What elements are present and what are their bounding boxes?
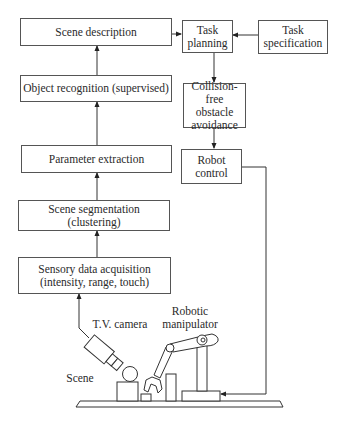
robotic-manipulator-icon <box>144 334 220 401</box>
robot-control-label-line1: Robot <box>197 154 225 167</box>
collision-free-avoidance-box: Collision-free obstacle avoidance <box>183 83 246 128</box>
object-recognition-box: Object recognition (supervised) <box>20 75 172 102</box>
robotic-manipulator-label-line2: manipulator <box>160 318 220 331</box>
large-block-icon <box>117 382 138 401</box>
parameter-extraction-label: Parameter extraction <box>49 153 144 166</box>
task-specification-label-line1: Task <box>282 24 304 37</box>
scene-label: Scene <box>60 372 100 385</box>
scene-description-box: Scene description <box>20 18 172 46</box>
parameter-extraction-box: Parameter extraction <box>21 145 172 173</box>
robot-control-box: Robot control <box>181 149 242 184</box>
sensory-label-line1: Sensory data acquisition <box>38 263 150 276</box>
task-planning-label-line1: Task <box>197 24 219 37</box>
robot-gripper <box>144 377 162 393</box>
robot-upper-arm <box>170 334 218 352</box>
table-icon <box>76 401 283 407</box>
scene-segmentation-label-line2: (clustering) <box>67 216 120 229</box>
sensory-data-acquisition-box: Sensory data acquisition (intensity, ran… <box>18 257 171 294</box>
scene-description-label: Scene description <box>55 26 136 39</box>
sphere-icon <box>123 367 138 382</box>
edge-control-to-manipulator <box>221 167 266 394</box>
object-recognition-label: Object recognition (supervised) <box>23 82 169 95</box>
scene-segmentation-label-line1: Scene segmentation <box>48 203 140 216</box>
scene-segmentation-box: Scene segmentation (clustering) <box>18 200 170 231</box>
collision-label-line3: avoidance <box>191 119 238 132</box>
collision-label-line1: Collision-free <box>184 80 245 106</box>
task-specification-label-line2: specification <box>264 37 323 50</box>
task-planning-label-line2: planning <box>187 37 227 50</box>
robotic-manipulator-label: Robotic manipulator <box>160 305 220 331</box>
robotic-manipulator-label-line1: Robotic <box>160 305 220 318</box>
edge-camera-to-sensory <box>79 294 89 338</box>
collision-label-line2: obstacle <box>196 106 234 119</box>
tall-block-icon <box>166 374 176 401</box>
task-specification-box: Task specification <box>258 20 328 54</box>
tv-camera-icon <box>84 335 125 373</box>
tv-camera-label: T.V. camera <box>90 318 150 331</box>
task-planning-box: Task planning <box>182 20 233 53</box>
small-block-icon <box>141 394 151 401</box>
sensory-label-line2: (intensity, range, touch) <box>40 276 149 289</box>
robot-control-label-line2: control <box>195 167 228 180</box>
robot-base <box>182 391 220 401</box>
